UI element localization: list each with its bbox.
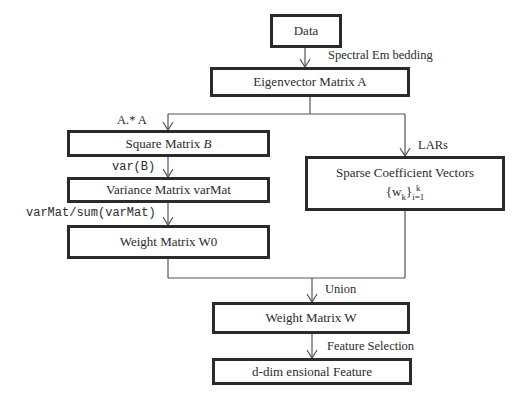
weight-matrix-w-node: Weight Matrix W [212,302,410,334]
data-node-label: Data [294,23,319,39]
square-matrix-label: Square Matrix B [126,136,212,152]
normalize-edge-label: varMat/sum(varMat) [26,206,156,220]
variance-edge-label: var(B) [112,160,155,174]
weight-matrix-w0-node: Weight Matrix W0 [67,225,270,259]
union-edge-label: Union [325,282,356,297]
spectral-embedding-label: Spectral Em bedding [328,48,433,63]
lars-edge-label: LARs [418,138,448,153]
weight-matrix-w-label: Weight Matrix W [265,310,356,326]
square-matrix-node: Square Matrix B [67,130,270,157]
sparse-coefficient-vectors-node: Sparse Coefficient Vectors {wk}ki=1 [305,156,505,211]
d-dimensional-feature-node: d-dim ensional Feature [212,358,412,385]
sparse-coefficient-formula: {wk}ki=1 [386,184,424,202]
elementwise-product-label: A.* A [117,113,147,128]
eigenvector-matrix-label: Eigenvector Matrix A [253,74,366,90]
d-dimensional-feature-label: d-dim ensional Feature [252,364,372,380]
variance-matrix-label: Variance Matrix varMat [106,182,231,198]
eigenvector-matrix-node: Eigenvector Matrix A [210,67,410,97]
weight-matrix-w0-label: Weight Matrix W0 [120,234,218,250]
sparse-coefficient-label: Sparse Coefficient Vectors [336,165,474,181]
data-node: Data [270,14,342,48]
feature-selection-edge-label: Feature Selection [327,339,414,354]
variance-matrix-node: Variance Matrix varMat [67,177,270,203]
